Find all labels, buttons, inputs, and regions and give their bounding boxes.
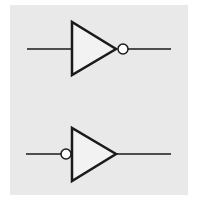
logic-gate-diagram xyxy=(0,0,201,202)
inversion-bubble-icon xyxy=(118,44,128,54)
buffer-triangle-icon xyxy=(72,128,116,181)
buffer-triangle-icon xyxy=(72,22,116,75)
inversion-bubble-icon xyxy=(61,149,71,159)
inverter-input-bubble xyxy=(26,128,171,181)
inverter-output-bubble xyxy=(27,22,171,75)
